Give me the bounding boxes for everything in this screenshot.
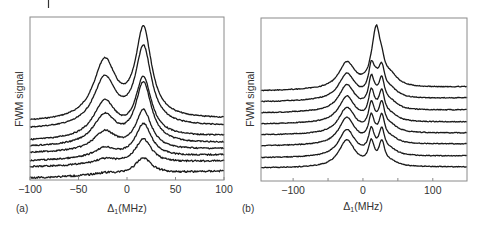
panel-b-x-axis-label: Δ1(MHz): [343, 200, 383, 213]
x-tick-label: 0: [124, 183, 130, 195]
fwm-trace: [30, 26, 224, 120]
panel-a-chart: −100−50050100 FWM signal Δ1(MHz) (a): [13, 17, 233, 215]
unit: (MHz): [354, 200, 383, 212]
panel-b-label: (b): [242, 203, 254, 214]
panel-a-label: (a): [16, 203, 28, 214]
figure-canvas: −100−50050100 FWM signal Δ1(MHz) (a) −10…: [0, 0, 479, 226]
panel-a-frame: [30, 17, 224, 180]
panel-a-y-axis-label: FWM signal: [13, 71, 25, 126]
fwm-trace: [261, 88, 467, 124]
x-tick-label: −100: [18, 183, 42, 195]
panel-b-chart: −1000100 FWM signal Δ1(MHz) (b): [242, 18, 467, 214]
x-tick-label: 50: [170, 183, 182, 195]
fwm-trace: [30, 139, 224, 168]
panel-a-x-axis-label: Δ1(MHz): [107, 202, 147, 215]
fwm-trace: [261, 61, 467, 102]
panel-a-traces: [30, 26, 224, 179]
x-tick-label: −50: [70, 183, 88, 195]
fwm-trace: [261, 113, 467, 146]
fwm-trace: [261, 74, 467, 113]
fwm-trace: [261, 101, 467, 135]
x-tick-label: 0: [360, 184, 366, 196]
x-tick-label: −100: [281, 184, 305, 196]
panel-b-traces: [261, 25, 467, 168]
delta-symbol: Δ: [107, 202, 114, 214]
delta-symbol: Δ: [343, 200, 350, 212]
fwm-trace: [30, 123, 224, 161]
fwm-trace: [261, 25, 467, 91]
fwm-trace: [30, 76, 224, 140]
fwm-trace: [261, 127, 467, 158]
x-tick-label: 100: [215, 183, 233, 195]
x-tick-label: 100: [424, 184, 442, 196]
unit: (MHz): [118, 202, 147, 214]
panel-b-y-axis-label: FWM signal: [244, 71, 256, 126]
